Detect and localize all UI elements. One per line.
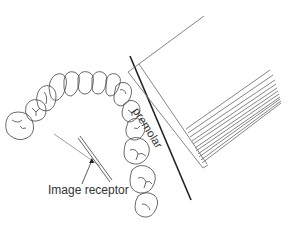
image-receptor-label: Image receptor [48, 184, 129, 196]
beam-line [130, 56, 191, 200]
receptor-leader [82, 158, 94, 184]
diagram-canvas [0, 0, 305, 231]
image-receptor [78, 136, 112, 182]
